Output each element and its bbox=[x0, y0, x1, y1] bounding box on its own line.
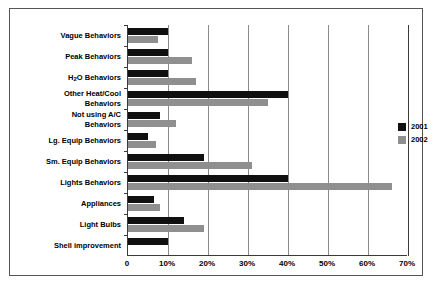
bar-2001 bbox=[128, 133, 148, 140]
bar-group: Appliances bbox=[128, 193, 407, 214]
chart-frame: Vague BehaviorsPeak BehaviorsH2O Behavio… bbox=[9, 8, 423, 276]
bar-2002 bbox=[128, 225, 204, 232]
legend-label: 2001 bbox=[411, 122, 428, 131]
bar-group: H2O Behaviors bbox=[128, 67, 407, 88]
x-tick-label: 70% bbox=[387, 259, 427, 268]
chart-legend: 20012002 bbox=[398, 122, 428, 148]
y-axis-tick bbox=[124, 46, 128, 47]
x-tick-label: 40% bbox=[267, 259, 307, 268]
bar-2001 bbox=[128, 196, 154, 203]
bar-group: Vague Behaviors bbox=[128, 25, 407, 46]
y-axis-tick bbox=[124, 172, 128, 173]
y-axis-tick bbox=[124, 25, 128, 26]
legend-swatch bbox=[398, 136, 406, 144]
category-label: Shell improvement bbox=[0, 241, 121, 251]
category-label: Appliances bbox=[0, 199, 121, 209]
legend-swatch bbox=[398, 123, 406, 131]
bar-2002 bbox=[128, 204, 160, 211]
bar-2001 bbox=[128, 49, 168, 56]
bar-2001 bbox=[128, 28, 168, 35]
y-axis-tick bbox=[124, 67, 128, 68]
bar-group: Not using A/CBehaviors bbox=[128, 109, 407, 130]
y-axis-tick bbox=[124, 151, 128, 152]
category-label: Lg. Equip Behaviors bbox=[0, 136, 121, 146]
y-axis-tick bbox=[124, 130, 128, 131]
category-label: H2O Behaviors bbox=[0, 73, 121, 84]
category-label: Light Bulbs bbox=[0, 220, 121, 230]
bar-2002 bbox=[128, 120, 176, 127]
bar-2001 bbox=[128, 154, 204, 161]
bar-group: Peak Behaviors bbox=[128, 46, 407, 67]
category-label: Lights Behaviors bbox=[0, 178, 121, 188]
category-label: Sm. Equip Behaviors bbox=[0, 157, 121, 167]
bar-2001 bbox=[128, 112, 160, 119]
category-label: Peak Behaviors bbox=[0, 52, 121, 62]
legend-item-2001: 2001 bbox=[398, 122, 428, 131]
bar-group: Lg. Equip Behaviors bbox=[128, 130, 407, 151]
bar-2001 bbox=[128, 175, 288, 182]
bar-group: Sm. Equip Behaviors bbox=[128, 151, 407, 172]
bar-2002 bbox=[128, 183, 392, 190]
category-label: Other Heat/CoolBehaviors bbox=[0, 89, 121, 108]
y-axis-tick bbox=[124, 109, 128, 110]
bar-group: Light Bulbs bbox=[128, 214, 407, 235]
bar-2002 bbox=[128, 162, 252, 169]
x-tick-label: 0 bbox=[107, 259, 147, 268]
legend-label: 2002 bbox=[411, 135, 428, 144]
x-tick-label: 60% bbox=[347, 259, 387, 268]
y-axis-tick bbox=[124, 235, 128, 236]
bar-2002 bbox=[128, 36, 158, 43]
category-label: Not using A/CBehaviors bbox=[0, 110, 121, 129]
bar-group: Other Heat/CoolBehaviors bbox=[128, 88, 407, 109]
bar-2001 bbox=[128, 70, 168, 77]
bar-2001 bbox=[128, 91, 288, 98]
bar-group: Lights Behaviors bbox=[128, 172, 407, 193]
bar-2002 bbox=[128, 78, 196, 85]
plot-area: Vague BehaviorsPeak BehaviorsH2O Behavio… bbox=[127, 25, 407, 256]
x-tick-label: 10% bbox=[147, 259, 187, 268]
y-axis-tick bbox=[124, 214, 128, 215]
bar-2001 bbox=[128, 217, 184, 224]
category-label: Vague Behaviors bbox=[0, 31, 121, 41]
bar-2002 bbox=[128, 57, 192, 64]
x-tick-label: 20% bbox=[187, 259, 227, 268]
legend-item-2002: 2002 bbox=[398, 135, 428, 144]
y-axis-tick bbox=[124, 88, 128, 89]
bar-2002 bbox=[128, 99, 268, 106]
bar-2001 bbox=[128, 238, 168, 245]
x-tick-label: 50% bbox=[307, 259, 347, 268]
x-axis-line bbox=[128, 255, 407, 256]
y-axis-tick bbox=[124, 193, 128, 194]
x-tick-label: 30% bbox=[227, 259, 267, 268]
bar-group: Shell improvement bbox=[128, 235, 407, 256]
bar-2002 bbox=[128, 141, 156, 148]
